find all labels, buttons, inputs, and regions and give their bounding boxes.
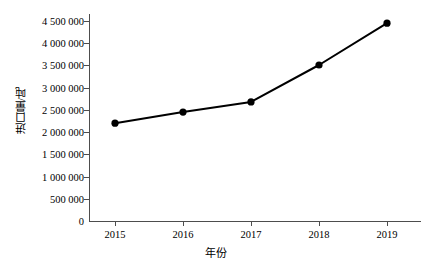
y-axis-tick-mark xyxy=(84,110,89,111)
y-axis-tick-label: 4 500 000 xyxy=(26,16,84,27)
x-axis-line xyxy=(89,221,421,222)
y-axis-tick-label: 1 000 000 xyxy=(26,171,84,182)
y-axis-tick-mark xyxy=(84,21,89,22)
y-axis-tick-label: 3 000 000 xyxy=(26,82,84,93)
x-axis-tick-label: 2018 xyxy=(291,229,347,240)
data-point xyxy=(111,120,118,127)
x-axis-tick-label: 2015 xyxy=(87,229,143,240)
data-point xyxy=(247,98,254,105)
x-axis-tick-mark xyxy=(319,221,320,226)
x-axis-title: 年份 xyxy=(0,244,431,260)
y-axis-tick-mark xyxy=(84,65,89,66)
series-markers xyxy=(111,20,390,127)
y-axis-tick-mark xyxy=(84,88,89,89)
x-axis-tick-mark xyxy=(251,221,252,226)
data-point xyxy=(383,20,390,27)
y-axis-tick-label: 1 500 000 xyxy=(26,149,84,160)
y-axis-tick-mark xyxy=(84,132,89,133)
y-axis-tick-label: 0 xyxy=(26,216,84,227)
x-axis-tick-label: 2016 xyxy=(155,229,211,240)
data-point xyxy=(315,61,322,68)
y-axis-tick-label: 2 000 000 xyxy=(26,127,84,138)
y-axis-tick-label: 500 000 xyxy=(26,193,84,204)
x-axis-tick-label: 2017 xyxy=(223,229,279,240)
y-axis-tick-labels: 0500 0001 000 0001 500 0002 000 0002 500… xyxy=(26,0,84,267)
data-point xyxy=(179,109,186,116)
y-axis-tick-mark xyxy=(84,43,89,44)
series-line-import-volume xyxy=(115,23,387,123)
y-axis-tick-label: 2 500 000 xyxy=(26,104,84,115)
y-axis-tick-label: 3 500 000 xyxy=(26,60,84,71)
x-axis-tick-mark xyxy=(183,221,184,226)
y-axis-tick-mark xyxy=(84,177,89,178)
y-axis-tick-mark xyxy=(84,154,89,155)
x-axis-tick-label: 2019 xyxy=(359,229,415,240)
y-axis-tick-label: 4 000 000 xyxy=(26,38,84,49)
y-axis-tick-mark xyxy=(84,199,89,200)
y-axis-line xyxy=(89,14,90,222)
x-axis-tick-mark xyxy=(115,221,116,226)
x-axis-tick-mark xyxy=(387,221,388,226)
line-chart: 进口量/吨 0500 0001 000 0001 500 0002 000 00… xyxy=(0,0,431,267)
